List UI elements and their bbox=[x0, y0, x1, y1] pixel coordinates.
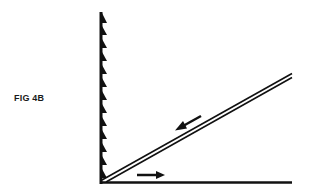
tooth bbox=[102, 143, 107, 152]
figure-drawing bbox=[0, 0, 310, 195]
tooth bbox=[102, 26, 107, 35]
tooth bbox=[102, 156, 107, 165]
tooth bbox=[102, 13, 107, 23]
down-left-arrow-icon bbox=[175, 116, 201, 131]
inclined-line-lower bbox=[106, 78, 292, 183]
inclined-line-upper bbox=[102, 74, 292, 181]
tooth bbox=[102, 91, 107, 100]
figure-canvas: FIG 4B bbox=[0, 0, 310, 195]
inclined-plane bbox=[102, 74, 292, 183]
sawtooth-teeth bbox=[102, 13, 107, 178]
right-arrow-icon bbox=[137, 171, 165, 179]
tooth bbox=[102, 117, 107, 126]
tooth bbox=[102, 130, 107, 139]
tooth bbox=[102, 52, 107, 61]
tooth bbox=[102, 104, 107, 113]
tooth bbox=[102, 169, 107, 178]
tooth bbox=[102, 78, 107, 87]
tooth bbox=[102, 65, 107, 74]
tooth bbox=[102, 39, 107, 48]
